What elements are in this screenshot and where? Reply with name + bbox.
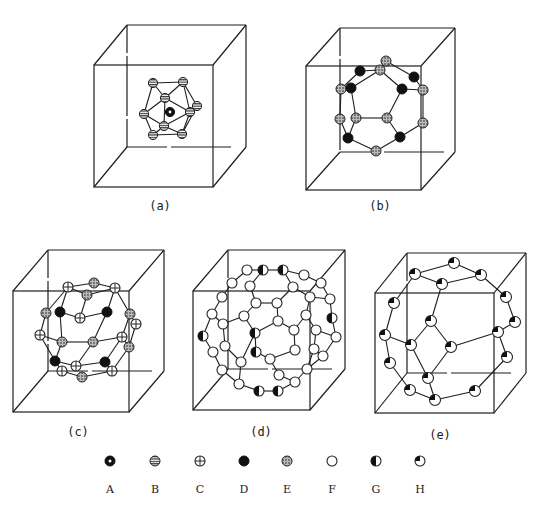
atom-h	[380, 330, 391, 341]
bond	[451, 332, 498, 347]
atom-g	[250, 328, 260, 338]
atom-c	[71, 361, 81, 371]
atom-b	[178, 77, 187, 86]
atom-c	[131, 319, 141, 329]
atom-d	[102, 307, 112, 317]
unit-cube	[306, 28, 455, 190]
legend-symbol-dot-in-black-circle-icon	[105, 456, 115, 466]
atom-h	[410, 269, 421, 280]
atom-f	[234, 379, 244, 389]
legend-item-h: H	[415, 456, 425, 496]
bond	[475, 357, 507, 391]
atom-f	[242, 265, 252, 275]
atom-f	[290, 377, 300, 387]
atom-b	[160, 93, 169, 102]
atom-f	[318, 351, 328, 361]
cube-edge	[421, 152, 455, 190]
atom-d	[355, 66, 365, 76]
atom-c	[75, 313, 85, 323]
atom-c	[57, 366, 67, 376]
panel-caption: (a)	[149, 199, 171, 213]
panel-b: (b)	[306, 28, 455, 213]
legend-label: B	[151, 483, 159, 496]
atom-f	[245, 281, 255, 291]
atom-d	[346, 83, 356, 93]
cube-edge	[494, 373, 526, 413]
atom-f	[288, 282, 298, 292]
legend-symbol-solid-black-circle-icon	[239, 456, 249, 466]
cube-edge	[13, 371, 48, 412]
atom-e	[88, 337, 98, 347]
panel-a: (a)	[94, 25, 246, 213]
atom-h	[426, 316, 437, 327]
atom-c	[63, 282, 73, 292]
atom-h	[385, 358, 396, 369]
legend-label: A	[105, 483, 115, 496]
atom-f	[236, 357, 246, 367]
cube-edge	[375, 253, 407, 293]
bond	[415, 263, 454, 274]
legend-item-e: E	[282, 456, 292, 496]
atoms	[380, 258, 521, 406]
atom-f	[289, 325, 299, 335]
atom-g	[254, 386, 264, 396]
panel-caption: (b)	[369, 199, 391, 213]
atom-f	[217, 292, 227, 302]
atom-f	[331, 332, 341, 342]
atom-e	[124, 342, 134, 352]
cluster-figure: (a)(b)(c)(d)(e) ABCDEFGH	[0, 0, 536, 505]
cube-edge	[310, 369, 345, 410]
atom-h	[476, 270, 487, 281]
legend-symbol-speckled-circle-icon	[282, 456, 292, 466]
unit-cube	[193, 250, 345, 410]
atoms	[139, 77, 201, 139]
atom-e	[336, 84, 346, 94]
atom-f	[217, 365, 227, 375]
atom-e	[77, 372, 87, 382]
atom-h	[430, 395, 441, 406]
atom-f	[309, 344, 319, 354]
atom-f	[265, 354, 275, 364]
atom-c	[110, 283, 120, 293]
atom-b	[177, 129, 186, 138]
panel-e: (e)	[375, 253, 526, 442]
atom-c	[107, 366, 117, 376]
atom-h	[502, 352, 513, 363]
atom-d	[343, 133, 353, 143]
atom-b	[192, 101, 201, 110]
unit-cube	[94, 25, 246, 187]
atom-c	[117, 332, 127, 342]
atoms	[198, 265, 341, 396]
atom-g	[327, 313, 337, 323]
legend-item-g: G	[371, 456, 381, 496]
atom-f	[274, 370, 284, 380]
atom-d	[100, 357, 110, 367]
legend-label: D	[240, 483, 249, 496]
atom-f	[325, 294, 335, 304]
legend-symbol-quarter-filled-circle-icon	[415, 456, 425, 466]
cube-edge	[306, 152, 340, 190]
legend-item-f: F	[327, 456, 337, 496]
atom-f	[302, 364, 312, 374]
atom-f	[305, 292, 315, 302]
atom-h	[501, 292, 512, 303]
atom-c	[35, 330, 45, 340]
cube-edge	[213, 147, 246, 187]
atom-e	[125, 309, 135, 319]
cube-edge	[213, 25, 246, 65]
atom-h	[446, 342, 457, 353]
cube-edge	[13, 250, 48, 291]
atom-f	[311, 325, 321, 335]
atom-f	[299, 270, 309, 280]
legend: ABCDEFGH	[105, 456, 425, 496]
cube-edge	[129, 250, 164, 291]
panel-d: (d)	[193, 250, 345, 439]
atom-e	[382, 113, 392, 123]
cube-edge	[494, 253, 526, 293]
atom-f	[218, 319, 228, 329]
atom-f	[251, 298, 261, 308]
atom-b	[148, 78, 157, 87]
atom-h	[405, 385, 416, 396]
atom-f	[316, 278, 326, 288]
cube-edge	[94, 25, 127, 65]
